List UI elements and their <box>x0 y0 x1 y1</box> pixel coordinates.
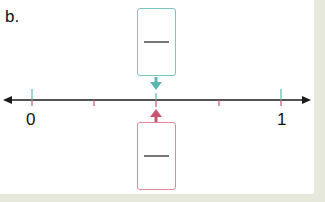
left-arrow-icon <box>3 96 12 104</box>
up-arrow-icon <box>150 109 162 117</box>
problem-panel: b. 0 1 <box>0 0 314 194</box>
down-arrow-icon <box>150 82 162 90</box>
tick-label-zero: 0 <box>26 110 35 130</box>
tick-label-one: 1 <box>277 110 286 130</box>
right-arrow-icon <box>302 96 311 104</box>
number-line <box>0 0 314 194</box>
